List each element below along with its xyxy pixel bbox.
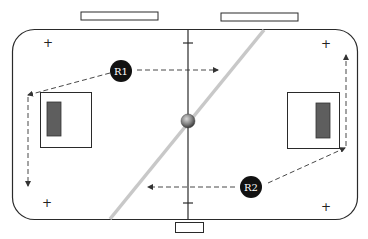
right-square	[288, 93, 340, 149]
plus-bottom-left: +	[42, 196, 52, 210]
diagram-svg: + + + + R1 R2	[0, 0, 368, 239]
marker-r2-label: R2	[244, 182, 258, 193]
marker-r1: R1	[110, 60, 132, 82]
marker-r1-label: R1	[114, 66, 128, 77]
diagram-canvas: + + + + R1 R2	[0, 0, 368, 239]
plus-top-right: +	[321, 37, 331, 51]
marker-r2: R2	[240, 176, 262, 198]
top-right-box	[221, 13, 298, 21]
r2-path-right-arrow	[268, 148, 345, 183]
left-inner-rect	[47, 102, 61, 136]
top-left-box	[81, 12, 158, 20]
plus-top-left: +	[43, 36, 53, 50]
plus-bottom-right: +	[321, 200, 331, 214]
center-ball-icon	[181, 114, 195, 128]
r1-path-left-arrow	[28, 73, 110, 95]
right-inner-rect	[316, 103, 330, 138]
bottom-box	[176, 223, 204, 233]
